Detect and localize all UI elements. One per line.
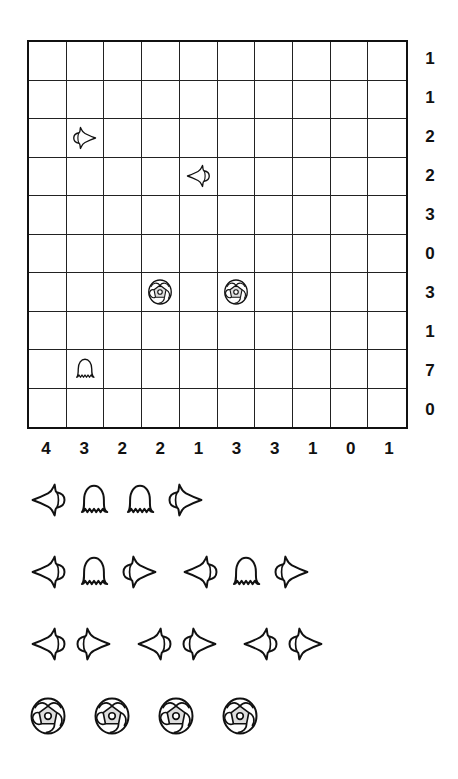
- grid-cell-r5-c7[interactable]: [293, 235, 331, 274]
- grid-cell-r9-c2[interactable]: [104, 389, 142, 428]
- grid-cell-r9-c9[interactable]: [368, 389, 406, 428]
- grid-cell-r8-c1[interactable]: [67, 350, 105, 389]
- grid-cell-r9-c6[interactable]: [255, 389, 293, 428]
- grid-cell-r1-c6[interactable]: [255, 81, 293, 120]
- grid-cell-r8-c4[interactable]: [180, 350, 218, 389]
- grid-cell-r4-c8[interactable]: [331, 196, 369, 235]
- grid-cell-r9-c3[interactable]: [142, 389, 180, 428]
- grid-cell-r3-c1[interactable]: [67, 158, 105, 197]
- grid-cell-r6-c4[interactable]: [180, 273, 218, 312]
- grid-cell-r0-c5[interactable]: [218, 42, 256, 81]
- grid-cell-r9-c5[interactable]: [218, 389, 256, 428]
- grid-cell-r2-c1[interactable]: [67, 119, 105, 158]
- grid-cell-r3-c9[interactable]: [368, 158, 406, 197]
- grid-cell-r0-c4[interactable]: [180, 42, 218, 81]
- grid-cell-r8-c5[interactable]: [218, 350, 256, 389]
- grid-cell-r1-c2[interactable]: [104, 81, 142, 120]
- grid-cell-r2-c5[interactable]: [218, 119, 256, 158]
- grid-cell-r6-c3[interactable]: [142, 273, 180, 312]
- grid-cell-r5-c5[interactable]: [218, 235, 256, 274]
- grid-cell-r4-c7[interactable]: [293, 196, 331, 235]
- grid-cell-r4-c4[interactable]: [180, 196, 218, 235]
- grid-cell-r2-c0[interactable]: [29, 119, 67, 158]
- grid-cell-r2-c7[interactable]: [293, 119, 331, 158]
- grid-cell-r5-c3[interactable]: [142, 235, 180, 274]
- grid-cell-r1-c0[interactable]: [29, 81, 67, 120]
- grid-cell-r8-c6[interactable]: [255, 350, 293, 389]
- grid-cell-r8-c2[interactable]: [104, 350, 142, 389]
- grid-cell-r6-c2[interactable]: [104, 273, 142, 312]
- grid-cell-r7-c9[interactable]: [368, 312, 406, 351]
- grid-cell-r5-c9[interactable]: [368, 235, 406, 274]
- grid-cell-r0-c2[interactable]: [104, 42, 142, 81]
- grid-cell-r3-c4[interactable]: [180, 158, 218, 197]
- grid-cell-r6-c7[interactable]: [293, 273, 331, 312]
- grid-cell-r2-c2[interactable]: [104, 119, 142, 158]
- grid-cell-r5-c4[interactable]: [180, 235, 218, 274]
- grid-cell-r6-c8[interactable]: [331, 273, 369, 312]
- grid-cell-r0-c0[interactable]: [29, 42, 67, 81]
- grid-cell-r3-c6[interactable]: [255, 158, 293, 197]
- grid-cell-r3-c8[interactable]: [331, 158, 369, 197]
- grid-cell-r0-c6[interactable]: [255, 42, 293, 81]
- grid-cell-r2-c9[interactable]: [368, 119, 406, 158]
- grid-cell-r8-c0[interactable]: [29, 350, 67, 389]
- grid-cell-r0-c3[interactable]: [142, 42, 180, 81]
- grid-cell-r0-c9[interactable]: [368, 42, 406, 81]
- grid-cell-r4-c1[interactable]: [67, 196, 105, 235]
- grid-cell-r9-c7[interactable]: [293, 389, 331, 428]
- grid-cell-r1-c9[interactable]: [368, 81, 406, 120]
- grid-cell-r5-c0[interactable]: [29, 235, 67, 274]
- grid-cell-r6-c9[interactable]: [368, 273, 406, 312]
- grid-cell-r9-c8[interactable]: [331, 389, 369, 428]
- grid-cell-r2-c6[interactable]: [255, 119, 293, 158]
- grid-cell-r7-c3[interactable]: [142, 312, 180, 351]
- grid-cell-r0-c7[interactable]: [293, 42, 331, 81]
- grid-cell-r7-c0[interactable]: [29, 312, 67, 351]
- grid-cell-r4-c9[interactable]: [368, 196, 406, 235]
- grid-cell-r8-c3[interactable]: [142, 350, 180, 389]
- grid-cell-r7-c6[interactable]: [255, 312, 293, 351]
- grid-cell-r2-c4[interactable]: [180, 119, 218, 158]
- grid-cell-r6-c1[interactable]: [67, 273, 105, 312]
- grid-cell-r4-c3[interactable]: [142, 196, 180, 235]
- grid-cell-r7-c7[interactable]: [293, 312, 331, 351]
- grid-cell-r1-c3[interactable]: [142, 81, 180, 120]
- grid-cell-r1-c4[interactable]: [180, 81, 218, 120]
- grid-cell-r7-c4[interactable]: [180, 312, 218, 351]
- grid-cell-r3-c5[interactable]: [218, 158, 256, 197]
- grid-cell-r6-c5[interactable]: [218, 273, 256, 312]
- grid-cell-r3-c7[interactable]: [293, 158, 331, 197]
- grid-cell-r4-c5[interactable]: [218, 196, 256, 235]
- grid-cell-r8-c9[interactable]: [368, 350, 406, 389]
- grid-cell-r2-c8[interactable]: [331, 119, 369, 158]
- grid-cell-r7-c1[interactable]: [67, 312, 105, 351]
- grid-cell-r4-c2[interactable]: [104, 196, 142, 235]
- grid-cell-r3-c0[interactable]: [29, 158, 67, 197]
- grid-cell-r7-c2[interactable]: [104, 312, 142, 351]
- grid-cell-r7-c8[interactable]: [331, 312, 369, 351]
- grid-cell-r5-c6[interactable]: [255, 235, 293, 274]
- grid-cell-r0-c8[interactable]: [331, 42, 369, 81]
- grid-cell-r1-c7[interactable]: [293, 81, 331, 120]
- grid-cell-r1-c1[interactable]: [67, 81, 105, 120]
- grid-cell-r9-c0[interactable]: [29, 389, 67, 428]
- grid-cell-r9-c4[interactable]: [180, 389, 218, 428]
- grid-cell-r4-c0[interactable]: [29, 196, 67, 235]
- grid-cell-r7-c5[interactable]: [218, 312, 256, 351]
- grid-cell-r8-c7[interactable]: [293, 350, 331, 389]
- grid-cell-r6-c6[interactable]: [255, 273, 293, 312]
- grid-cell-r8-c8[interactable]: [331, 350, 369, 389]
- grid-cell-r9-c1[interactable]: [67, 389, 105, 428]
- grid-cell-r5-c8[interactable]: [331, 235, 369, 274]
- grid-cell-r1-c5[interactable]: [218, 81, 256, 120]
- grid-cell-r4-c6[interactable]: [255, 196, 293, 235]
- grid-cell-r3-c2[interactable]: [104, 158, 142, 197]
- grid-cell-r5-c2[interactable]: [104, 235, 142, 274]
- grid-cell-r6-c0[interactable]: [29, 273, 67, 312]
- grid-cell-r1-c8[interactable]: [331, 81, 369, 120]
- grid-cell-r2-c3[interactable]: [142, 119, 180, 158]
- grid-cell-r0-c1[interactable]: [67, 42, 105, 81]
- grid-cell-r5-c1[interactable]: [67, 235, 105, 274]
- grid-cell-r3-c3[interactable]: [142, 158, 180, 197]
